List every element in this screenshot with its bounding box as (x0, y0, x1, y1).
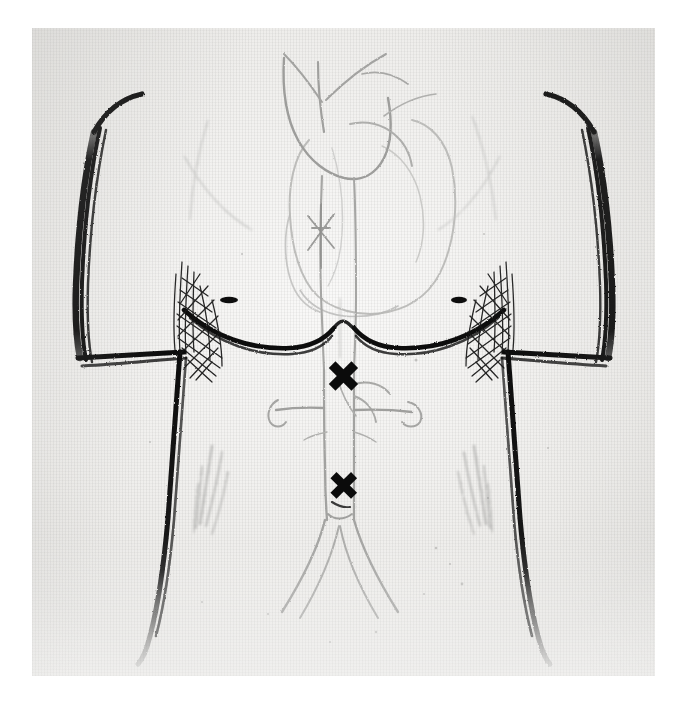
right-oblique-shading (194, 446, 228, 534)
subclavian-branchlet (362, 72, 408, 84)
right-shoulder-top (94, 94, 142, 132)
right-atrium-contour (382, 146, 423, 262)
right-arm-bottom-edge (78, 352, 184, 358)
aortic-bifurcation-apex (328, 514, 352, 519)
figure-root: Anterior torso with heart and aorta, mar… (0, 0, 683, 710)
left-common-iliac-inner-wall (340, 526, 378, 618)
right-common-iliac-artery (282, 520, 325, 612)
aortic-arch (284, 58, 391, 179)
left-shoulder-soft-contour (472, 116, 496, 220)
right-renal-artery-hilum (268, 400, 286, 427)
left-arm-bottom-edge (504, 352, 610, 358)
scan-speckles (149, 233, 549, 643)
left-renal-artery (354, 410, 412, 412)
left-renal-artery-hilum (402, 402, 421, 427)
descending-thoracic-aorta-right-wall (354, 178, 356, 370)
left-pectoral-upper (438, 156, 500, 230)
heart-silhouette (290, 120, 456, 314)
costal-margin-apex (334, 321, 354, 328)
heart-landmark-cross-icon (308, 204, 334, 268)
nipple-marks (220, 297, 467, 303)
left-nipple (451, 297, 467, 303)
upper-x-mark[interactable]: ✖ (325, 355, 362, 399)
left-common-carotid-artery (284, 54, 322, 102)
left-subclavian-artery (326, 54, 386, 100)
pulmonary-trunk (350, 122, 412, 166)
right-nipple (220, 297, 238, 303)
left-shoulder-top (546, 94, 594, 132)
heart-inner-crease (328, 148, 343, 286)
lower-x-mark[interactable]: ✖ (327, 466, 361, 506)
left-oblique-shading (458, 446, 492, 534)
right-pectoral-upper (184, 156, 252, 230)
lumbar-branchlets (304, 432, 376, 442)
right-renal-artery (276, 408, 324, 410)
left-common-iliac-artery (354, 520, 398, 612)
pulmonary-branch (384, 94, 436, 116)
scanned-paper-plate: ✖ ✖ (32, 28, 655, 676)
